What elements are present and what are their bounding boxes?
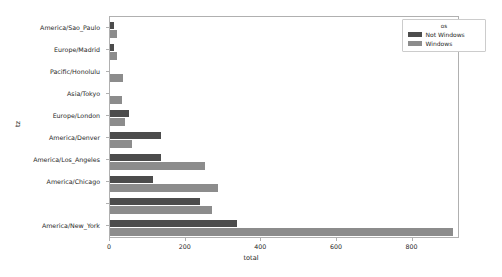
y-tick-label: America/Chicago: [47, 178, 100, 185]
x-tick-label: 400: [254, 243, 266, 250]
x-tick-mark: [412, 238, 413, 241]
legend-title: os: [408, 23, 480, 29]
x-tick-label: 600: [330, 243, 342, 250]
y-tick-label: America/New_York: [42, 222, 100, 229]
x-tick-label: 200: [179, 243, 191, 250]
legend-label: Windows: [426, 40, 453, 47]
y-tick-label: America/Los_Angeles: [33, 156, 100, 163]
y-tick-label: America/Sao_Paulo: [40, 24, 100, 31]
bar-chart-figure: America/Sao_PauloEurope/MadridPacific/Ho…: [0, 0, 502, 277]
x-tick-mark: [185, 238, 186, 241]
x-tick-mark: [109, 238, 110, 241]
x-tick-label: 800: [406, 243, 418, 250]
y-tick-label: Pacific/Honolulu: [50, 68, 100, 75]
x-tick-mark: [260, 238, 261, 241]
legend: os Not WindowsWindows: [402, 19, 486, 52]
x-tick-mark: [336, 238, 337, 241]
y-tick-label: Europe/London: [53, 112, 100, 119]
y-tick-label: Europe/Madrid: [54, 46, 100, 53]
x-axis-title: total: [0, 254, 502, 262]
y-axis-title: tz: [14, 121, 22, 127]
y-tick-label: Asia/Tokyo: [67, 90, 100, 97]
x-tick-label: 0: [107, 243, 111, 250]
y-tick-label: America/Denver: [49, 134, 100, 141]
legend-item[interactable]: Windows: [408, 40, 480, 47]
legend-label: Not Windows: [426, 31, 465, 38]
legend-item[interactable]: Not Windows: [408, 31, 480, 38]
legend-swatch-icon: [408, 41, 422, 46]
legend-swatch-icon: [408, 32, 422, 37]
legend-entries: Not WindowsWindows: [408, 31, 480, 47]
